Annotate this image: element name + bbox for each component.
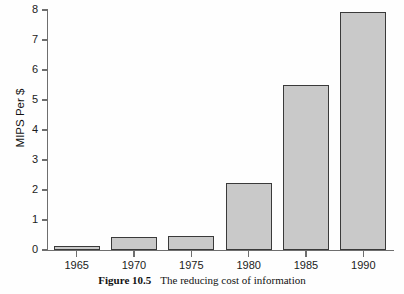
y-axis-label-1: 1 xyxy=(16,214,38,225)
y-axis-tick-1 xyxy=(42,219,48,220)
figure-caption-label: Figure 10.5 xyxy=(98,274,151,286)
bar-1980 xyxy=(226,183,272,251)
x-axis-tick-1990 xyxy=(363,251,364,257)
x-axis-label-1980: 1980 xyxy=(219,259,279,271)
x-axis-label-1975: 1975 xyxy=(161,259,221,271)
y-axis-label-8: 8 xyxy=(16,4,38,15)
x-axis-tick-1985 xyxy=(305,251,306,257)
y-axis-label-3: 3 xyxy=(16,154,38,165)
y-axis-label-4: 4 xyxy=(16,124,38,135)
bar-1970 xyxy=(111,237,157,250)
y-axis-label-5: 5 xyxy=(16,94,38,105)
y-axis-tick-3 xyxy=(42,159,48,160)
y-axis-label-2: 2 xyxy=(16,184,38,195)
figure-caption: Figure 10.5The reducing cost of informat… xyxy=(0,274,404,287)
bar-1975 xyxy=(168,236,214,250)
bar-1965 xyxy=(54,246,100,251)
y-axis-label-6: 6 xyxy=(16,64,38,75)
y-axis-tick-5 xyxy=(42,99,48,100)
y-axis-tick-4 xyxy=(42,129,48,130)
x-axis-tick-1980 xyxy=(248,251,249,257)
x-axis-tick-1970 xyxy=(133,251,134,257)
bar-1990 xyxy=(340,12,386,251)
figure-caption-text: The reducing cost of information xyxy=(160,274,305,286)
x-axis-label-1970: 1970 xyxy=(104,259,164,271)
y-axis-label-7: 7 xyxy=(16,34,38,45)
y-axis-tick-8 xyxy=(42,9,48,10)
y-axis-label-0: 0 xyxy=(16,244,38,255)
x-axis-label-1990: 1990 xyxy=(333,259,393,271)
x-axis-label-1985: 1985 xyxy=(276,259,336,271)
cropped-text-above xyxy=(38,0,268,7)
x-axis-tick-1975 xyxy=(191,251,192,257)
x-axis-line xyxy=(42,250,394,251)
y-axis-tick-6 xyxy=(42,69,48,70)
y-axis-tick-2 xyxy=(42,189,48,190)
x-axis-label-1965: 1965 xyxy=(47,259,107,271)
bar-1985 xyxy=(283,85,329,250)
y-axis-tick-0 xyxy=(42,249,48,250)
x-axis-tick-1965 xyxy=(76,251,77,257)
y-axis-tick-7 xyxy=(42,39,48,40)
figure-container: MIPS Per $ 012345678 1965197019751980198… xyxy=(0,0,404,294)
